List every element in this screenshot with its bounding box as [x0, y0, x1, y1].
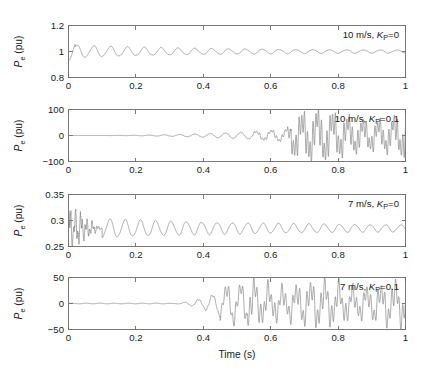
- multi-subplot-figure: 0.811.2 00.20.40.60.81 Pe (pu) 10 m/s, K…: [0, 0, 424, 369]
- y-title-unit: (pu): [13, 120, 24, 141]
- subplot-4-y-axis-title: Pe (pu): [13, 288, 27, 320]
- x-tick-label: 1: [403, 80, 408, 91]
- x-tick-label: 0.2: [129, 80, 142, 91]
- x-tick-label: 0.2: [129, 164, 142, 175]
- x-tick-label: 0.8: [331, 164, 344, 175]
- subplot-3-y-axis-title: Pe (pu): [13, 205, 27, 237]
- x-tick-label: 0.8: [331, 80, 344, 91]
- y-title-unit: (pu): [13, 36, 24, 57]
- x-tick-label: 0.8: [331, 249, 344, 260]
- x-tick-label: 1: [403, 249, 408, 260]
- subplot-1-annotation: 10 m/s, KP=0: [343, 29, 399, 42]
- subplot-2-y-tick-labels: 1000−100: [42, 104, 64, 167]
- annotation-wind-speed: 10 m/s,: [335, 113, 369, 124]
- x-tick-label: 0: [66, 164, 71, 175]
- x-tick-label: 0.6: [264, 249, 277, 260]
- x-tick-label: 0: [66, 249, 71, 260]
- subplot-4: 500−50 00.20.40.60.81 Pe (pu) 7 m/s, KP=…: [13, 272, 408, 360]
- annotation-wind-speed: 10 m/s,: [343, 29, 377, 40]
- x-tick-label: 0.6: [264, 80, 277, 91]
- subplot-1-y-tick-labels: 0.811.2: [51, 20, 64, 83]
- y-tick-label: 0: [59, 298, 64, 309]
- subplot-1-data-line: [69, 44, 406, 60]
- subplot-4-annotation: 7 m/s, KP=0.1: [340, 281, 399, 294]
- x-tick-label: 1: [403, 164, 408, 175]
- y-tick-label: 50: [53, 272, 64, 283]
- subplot-1: 0.811.2 00.20.40.60.81 Pe (pu) 10 m/s, K…: [13, 20, 408, 91]
- x-tick-label: 0.4: [197, 332, 211, 343]
- y-title-unit: (pu): [13, 288, 24, 309]
- subplot-4-y-tick-labels: 500−50: [48, 272, 64, 335]
- subplot-3-x-tick-labels: 00.20.40.60.81: [66, 249, 408, 260]
- annotation-k-value: =0: [388, 198, 399, 209]
- subplot-2: 1000−100 00.20.40.60.81 Pe (pu) 10 m/s, …: [13, 104, 408, 175]
- y-tick-label: 0: [59, 130, 64, 141]
- annotation-wind-speed: 7 m/s,: [348, 198, 377, 209]
- x-tick-label: 0.4: [197, 249, 211, 260]
- x-tick-label: 0.2: [129, 332, 142, 343]
- annotation-k-value: =0: [388, 29, 399, 40]
- x-tick-label: 0.4: [197, 164, 211, 175]
- x-tick-label: 0.2: [129, 249, 142, 260]
- subplot-4-x-tick-labels: 00.20.40.60.81: [66, 332, 408, 343]
- subplot-3: 0.250.30.35 00.20.40.60.81 Pe (pu) 7 m/s…: [13, 189, 408, 260]
- y-tick-label: 0.25: [45, 241, 64, 252]
- annotation-wind-speed: 7 m/s,: [340, 281, 369, 292]
- y-tick-label: 0.8: [51, 72, 64, 83]
- x-tick-label: 0: [66, 332, 71, 343]
- subplot-3-data-line: [69, 209, 406, 246]
- subplot-2-x-tick-labels: 00.20.40.60.81: [66, 164, 408, 175]
- x-tick-label: 0.4: [197, 80, 211, 91]
- x-tick-label: 0: [66, 80, 71, 91]
- x-axis-title: Time (s): [219, 349, 256, 360]
- y-tick-label: 0.35: [45, 189, 64, 200]
- y-tick-label: 100: [48, 104, 64, 115]
- y-title-unit: (pu): [13, 205, 24, 226]
- x-tick-label: 0.6: [264, 164, 277, 175]
- y-tick-label: 1.2: [51, 20, 64, 31]
- subplot-3-annotation: 7 m/s, KP=0: [348, 198, 399, 211]
- annotation-k-value: =0.1: [380, 281, 399, 292]
- x-tick-label: 1: [403, 332, 408, 343]
- x-tick-label: 0.6: [264, 332, 277, 343]
- y-tick-label: 0.3: [51, 215, 64, 226]
- subplot-2-y-axis-title: Pe (pu): [13, 120, 27, 152]
- subplot-3-y-tick-labels: 0.250.30.35: [45, 189, 64, 252]
- y-tick-label: −50: [48, 324, 64, 335]
- subplot-1-x-tick-labels: 00.20.40.60.81: [66, 80, 408, 91]
- y-tick-label: 1: [59, 46, 64, 57]
- x-tick-label: 0.8: [331, 332, 344, 343]
- figure-container: 0.811.2 00.20.40.60.81 Pe (pu) 10 m/s, K…: [0, 0, 424, 369]
- annotation-k-value: =0.1: [380, 113, 399, 124]
- subplot-1-y-axis-title: Pe (pu): [13, 36, 27, 68]
- y-tick-label: −100: [42, 156, 64, 167]
